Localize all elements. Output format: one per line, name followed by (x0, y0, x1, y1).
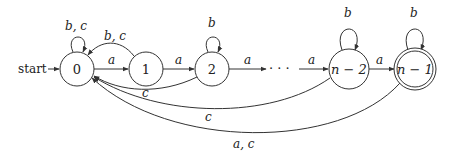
state-n-2: n − 2 (329, 49, 369, 89)
edge-label-2-2: b (208, 16, 216, 30)
start-label: start (18, 62, 47, 76)
state-0-label: 0 (73, 62, 81, 77)
edge-label-0-1: a (108, 53, 115, 67)
edge-label-n-2-n-2: b (344, 6, 352, 20)
state-n-1-accepting: n − 1 (394, 48, 436, 90)
state-n-1-label: n − 1 (397, 62, 433, 77)
edge-label-ellipsis-n-2: a (308, 53, 315, 67)
edge-label-1-0: b, c (104, 29, 126, 43)
edge-n-2-n-2 (340, 29, 357, 50)
edge-label-0-0: b, c (65, 19, 87, 33)
state-n-2-label: n − 2 (331, 62, 367, 77)
state-1-label: 1 (142, 62, 150, 77)
state-2: 2 (195, 52, 229, 86)
edge-n-1-n-1 (406, 29, 423, 50)
edge-0-0 (71, 37, 85, 52)
ellipsis: · · · (269, 61, 290, 76)
edge-label-n-1-0: a, c (233, 137, 255, 151)
state-0: 0 (60, 52, 94, 86)
state-1: 1 (129, 52, 163, 86)
edge-label-n-2-n-1: a (376, 53, 383, 67)
automaton-diagram: start b, c a b, c a b a · · · c a b a c … (0, 0, 451, 155)
edge-2-2 (206, 37, 220, 52)
edge-label-1-2: a (175, 53, 182, 67)
state-2-label: 2 (208, 62, 216, 77)
edge-label-n-2-0: c (205, 110, 212, 124)
edge-label-2-ellipsis: a (244, 53, 251, 67)
edge-label-n-1-n-1: b (410, 6, 418, 20)
